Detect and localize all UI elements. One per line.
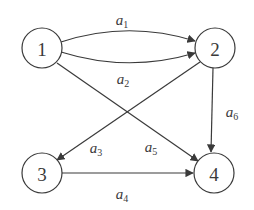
node-4-label: 4: [209, 164, 219, 185]
edge-label-a5: a5: [145, 139, 158, 157]
node-4: 4: [194, 153, 234, 193]
edge-label-a2-base: a: [117, 71, 125, 87]
node-3-label: 3: [37, 164, 47, 185]
directed-graph-diagram: 1 2 3 4 a1 a2 a3 a4 a5: [0, 0, 254, 210]
edge-a1: [61, 31, 195, 42]
node-1-label: 1: [37, 39, 47, 60]
edge-label-a4-base: a: [116, 186, 124, 202]
edge-label-a2: a2: [117, 71, 130, 89]
edge-label-a3-sub: 3: [97, 147, 102, 158]
edge-label-a5-sub: 5: [152, 146, 157, 157]
edge-label-a2-sub: 2: [124, 78, 129, 89]
edge-label-a6: a6: [226, 104, 239, 122]
edge-label-a1-sub: 1: [123, 19, 128, 30]
node-2-label: 2: [210, 39, 220, 60]
edge-label-a6-base: a: [226, 104, 234, 120]
edge-label-a1: a1: [116, 12, 129, 30]
edge-a2: [61, 52, 195, 63]
edge-label-a1-base: a: [116, 12, 124, 28]
node-1: 1: [22, 28, 62, 68]
edge-a6: [211, 68, 213, 152]
edge-label-a3-base: a: [90, 140, 98, 156]
node-2: 2: [195, 28, 235, 68]
node-3: 3: [22, 153, 62, 193]
edge-label-a4-sub: 4: [123, 193, 128, 204]
edges-group: [57, 31, 213, 173]
edge-label-a3: a3: [90, 140, 103, 158]
edge-label-a4: a4: [116, 186, 129, 204]
edge-label-a6-sub: 6: [233, 111, 238, 122]
edge-label-a5-base: a: [145, 139, 153, 155]
